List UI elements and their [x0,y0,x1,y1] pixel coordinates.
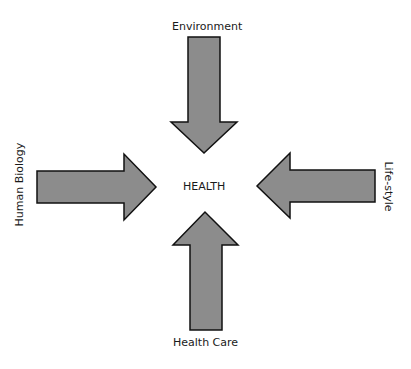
arrow-life-style-left [257,153,375,218]
center-label-health: HEALTH [183,180,225,193]
arrow-human-biology-right [37,154,156,220]
label-life-style: Life-style [382,157,395,217]
label-human-biology: Human Biology [13,147,26,227]
arrow-environment-down [171,37,237,153]
label-health-care: Health Care [173,336,238,349]
arrow-health-care-up [173,212,238,330]
label-environment: Environment [172,20,242,33]
